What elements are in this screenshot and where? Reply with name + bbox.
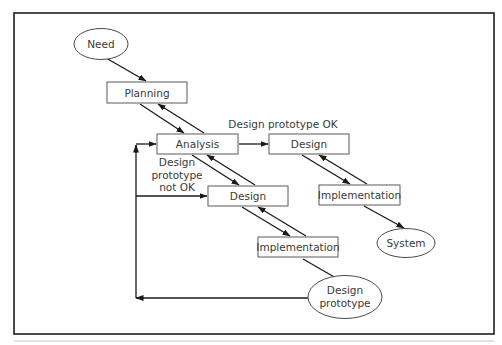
implementation-proto-label: Implementation	[256, 241, 339, 253]
prototype-not-ok-line3: not OK	[159, 181, 196, 193]
edge-planning-to-analysis	[140, 104, 184, 133]
implementation-ok-label: Implementation	[318, 189, 401, 201]
prototype-not-ok-line2: prototype	[151, 169, 202, 181]
edge-implementation-to-system	[364, 206, 404, 228]
design-prototype-label-line1: Design	[327, 284, 363, 296]
prototype-not-ok-annotation: Design prototype not OK	[151, 156, 202, 193]
node-implementation-proto: Implementation	[256, 237, 339, 257]
node-planning: Planning	[107, 82, 187, 103]
node-design-proto: Design	[208, 186, 288, 206]
node-design-ok: Design	[269, 134, 349, 154]
prototype-ok-annotation: Design prototype OK	[228, 118, 338, 130]
node-implementation-ok: Implementation	[318, 185, 401, 205]
edge-analysis-to-planning	[158, 104, 204, 133]
design-ok-label: Design	[291, 138, 327, 150]
system-label: System	[386, 237, 425, 249]
design-proto-label: Design	[230, 190, 266, 202]
node-design-prototype: Design prototype	[308, 276, 382, 319]
analysis-label: Analysis	[176, 138, 219, 150]
prototyping-process-diagram: Need Planning Analysis Design Implementa…	[0, 0, 502, 345]
planning-label: Planning	[124, 87, 169, 99]
diagram-frame	[14, 13, 494, 334]
node-need: Need	[74, 29, 128, 60]
need-label: Need	[87, 38, 114, 50]
node-analysis: Analysis	[157, 134, 238, 154]
prototype-not-ok-line1: Design	[159, 156, 195, 168]
edge-need-to-planning	[106, 58, 146, 81]
node-system: System	[377, 229, 435, 258]
design-prototype-label-line2: prototype	[319, 297, 370, 309]
